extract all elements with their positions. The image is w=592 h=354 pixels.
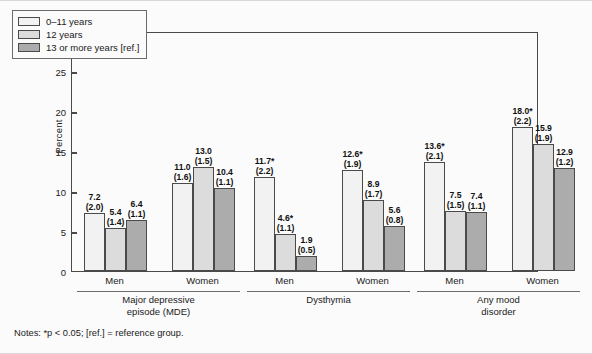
x-group-label: Any mooddisorder: [477, 294, 520, 317]
bar: [214, 188, 235, 271]
legend-label: 0–11 years: [46, 16, 92, 27]
y-tick-mark: [72, 112, 77, 113]
legend-item: 12 years: [18, 28, 139, 41]
bar-value-label: 10.4(1.1): [203, 167, 247, 187]
legend-label: 12 years: [46, 29, 82, 40]
bar-value-label: 12.6*(1.9): [331, 149, 375, 169]
y-tick-label: 0: [40, 267, 66, 278]
bars-layer: 7.2(2.0)5.4(1.4)6.4(1.1)11.0(1.6)13.0(1.…: [72, 33, 537, 271]
bar-value-label: 13.0(1.5): [182, 146, 226, 166]
x-category-label: Women: [186, 275, 219, 286]
bar-value-label: 5.6(0.8): [373, 205, 417, 225]
bar: [554, 168, 575, 271]
bar: [384, 226, 405, 271]
y-axis-tick-labels: 051015202530: [36, 32, 66, 272]
y-tick-label: 5: [40, 227, 66, 238]
bar: [512, 127, 533, 271]
group-separator-rule: [417, 291, 580, 292]
x-category-label: Women: [356, 275, 389, 286]
bar: [466, 212, 487, 271]
y-tick-mark: [72, 72, 77, 73]
x-category-label: Women: [526, 275, 559, 286]
bar: [172, 183, 193, 271]
x-category-label: Men: [105, 275, 123, 286]
bar-value-label: 13.6*(2.1): [413, 141, 457, 161]
bar-value-label: 4.6*(1.1): [264, 213, 308, 233]
bar: [126, 220, 147, 271]
bar: [105, 228, 126, 271]
x-group-label: Major depressiveepisode (MDE): [122, 294, 194, 317]
legend-item: 13 or more years [ref.]: [18, 41, 139, 54]
y-tick-label: 15: [40, 147, 66, 158]
y-tick-mark: [72, 192, 77, 193]
legend-swatch: [18, 30, 40, 39]
x-group-label: Dysthymia: [306, 294, 350, 306]
bar-value-label: 12.9(1.2): [543, 147, 587, 167]
bar: [445, 211, 466, 271]
y-tick-label: 20: [40, 107, 66, 118]
legend: 0–11 years12 years13 or more years [ref.…: [12, 10, 147, 59]
x-axis-labels: MenWomenMenWomenMenWomenMajor depressive…: [71, 272, 538, 332]
bar: [424, 162, 445, 271]
legend-swatch: [18, 43, 40, 52]
legend-swatch: [18, 17, 40, 26]
figure-container: Percent 051015202530 7.2(2.0)5.4(1.4)6.4…: [0, 0, 592, 354]
y-tick-mark: [72, 152, 77, 153]
y-tick-mark: [72, 232, 77, 233]
bar-value-label: 6.4(1.1): [115, 199, 159, 219]
group-separator-rule: [247, 291, 410, 292]
y-tick-label: 25: [40, 67, 66, 78]
plot-area: 7.2(2.0)5.4(1.4)6.4(1.1)11.0(1.6)13.0(1.…: [71, 32, 538, 272]
bar-value-label: 1.9(0.5): [285, 235, 329, 255]
bar-value-label: 15.9(1.9): [522, 123, 566, 143]
x-category-label: Men: [445, 275, 463, 286]
y-tick-label: 10: [40, 187, 66, 198]
bar-value-label: 11.7*(2.2): [243, 156, 287, 176]
figure-notes: Notes: *p < 0.05; [ref.] = reference gro…: [14, 328, 184, 338]
x-category-label: Men: [275, 275, 293, 286]
group-separator-rule: [77, 291, 240, 292]
bar: [296, 256, 317, 271]
legend-item: 0–11 years: [18, 15, 139, 28]
bar-value-label: 7.4(1.1): [455, 191, 499, 211]
legend-label: 13 or more years [ref.]: [46, 42, 139, 53]
bar-value-label: 8.9(1.7): [352, 179, 396, 199]
